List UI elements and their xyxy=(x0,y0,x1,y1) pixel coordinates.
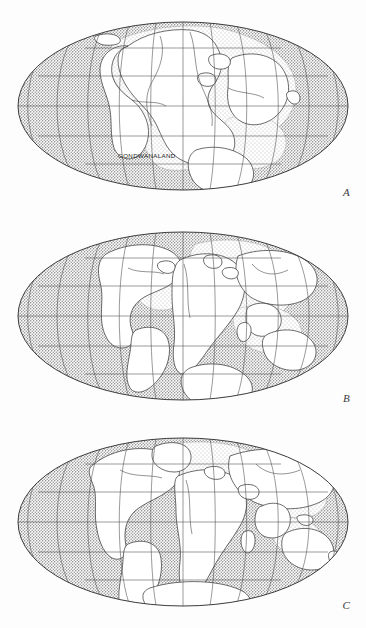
mollweide-map-a xyxy=(0,0,366,212)
panel-label-c: C xyxy=(342,599,350,611)
gondwanaland-label: GONDWANALAND xyxy=(118,152,176,159)
map-panel-a: GONDWANALAND xyxy=(0,0,366,212)
map-panel-c xyxy=(0,420,366,628)
continental-drift-figure: GONDWANALAND A xyxy=(0,0,366,628)
map-panel-b xyxy=(0,212,366,420)
panel-label-a: A xyxy=(343,186,350,198)
mollweide-map-c xyxy=(0,420,366,628)
panel-label-b: B xyxy=(343,392,350,404)
mollweide-map-b xyxy=(0,212,366,420)
